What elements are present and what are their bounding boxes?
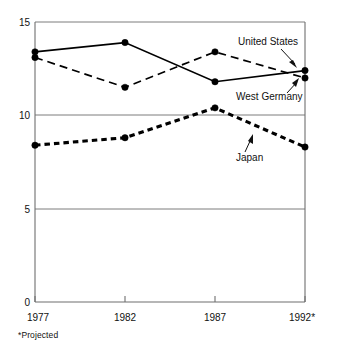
x-tick-label-1987: 1987 bbox=[204, 312, 227, 323]
y-tick-label-0: 0 bbox=[24, 297, 30, 308]
axes bbox=[35, 22, 305, 302]
x-tick-marks bbox=[35, 296, 305, 302]
series-line-united-states bbox=[35, 43, 305, 82]
series-japan bbox=[32, 105, 308, 151]
annotation-arrowhead-united-states bbox=[289, 60, 297, 68]
series-line-west-germany bbox=[35, 52, 305, 87]
footnote: *Projected bbox=[18, 330, 58, 340]
series-line-japan bbox=[35, 108, 305, 147]
annotation-united-states: United States bbox=[238, 36, 298, 68]
x-tick-label-1992: 1992* bbox=[289, 312, 315, 323]
annotation-arrowhead-japan bbox=[248, 134, 253, 144]
gridlines bbox=[35, 22, 305, 209]
data-point bbox=[122, 39, 128, 45]
chart-canvas: 15 10 5 0 1977 1982 1987 1992* United St… bbox=[0, 0, 338, 356]
line-chart: 15 10 5 0 1977 1982 1987 1992* United St… bbox=[0, 0, 338, 356]
annotation-label-japan: Japan bbox=[236, 152, 263, 163]
y-tick-label-10: 10 bbox=[19, 110, 31, 121]
data-point bbox=[32, 49, 38, 55]
y-tick-label-15: 15 bbox=[19, 17, 31, 28]
data-point bbox=[212, 79, 218, 85]
data-point bbox=[212, 105, 218, 111]
x-tick-label-1977: 1977 bbox=[27, 312, 50, 323]
data-point bbox=[212, 49, 218, 55]
x-tick-label-1982: 1982 bbox=[114, 312, 137, 323]
y-tick-label-5: 5 bbox=[24, 204, 30, 215]
annotation-west-germany: West Germany bbox=[236, 78, 303, 102]
annotation-japan: Japan bbox=[236, 134, 263, 163]
annotation-label-west-germany: West Germany bbox=[236, 91, 303, 102]
data-point bbox=[32, 142, 38, 148]
y-tick-labels: 15 10 5 0 bbox=[19, 17, 31, 308]
data-point bbox=[122, 84, 128, 90]
x-tick-labels: 1977 1982 1987 1992* bbox=[27, 312, 315, 323]
data-point bbox=[302, 67, 308, 73]
series-west-germany bbox=[32, 49, 308, 91]
annotation-label-united-states: United States bbox=[238, 36, 298, 47]
data-point bbox=[122, 135, 128, 141]
data-point bbox=[302, 144, 308, 150]
data-point bbox=[302, 75, 308, 81]
